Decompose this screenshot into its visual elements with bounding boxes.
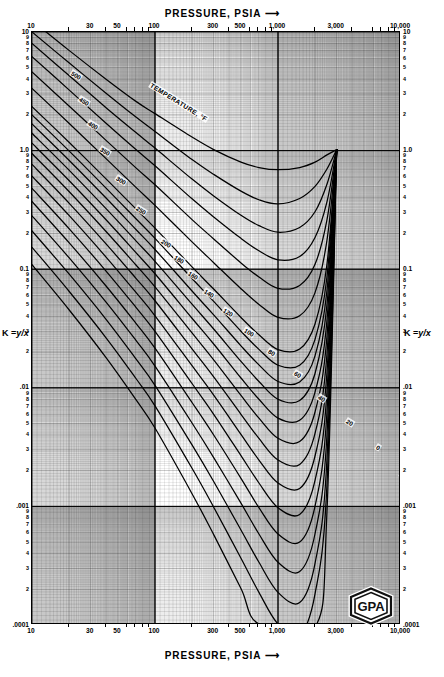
x-minor-tick [228, 27, 229, 31]
x-minor-tick [134, 623, 135, 627]
y-minor-tick-right-3: 3 [403, 328, 406, 334]
y-minor-tick-left-8: 8 [26, 514, 29, 520]
y-minor-tick-right-3: 3 [403, 209, 406, 215]
x-tick-top-30: 30 [86, 22, 93, 29]
y-minor-tick-right-3: 3 [403, 565, 406, 571]
y-minor-tick-right-7: 7 [403, 521, 406, 527]
bottom-axis-title: PRESSURE, PSIA⟶ [165, 650, 280, 661]
top-axis-title-text: PRESSURE, PSIA [165, 8, 262, 19]
x-minor-tick [142, 27, 143, 31]
y-minor-tick-left-3: 3 [26, 328, 29, 334]
y-minor-tick-left-2: 2 [26, 467, 29, 473]
y-minor-tick-left-4: 4 [26, 313, 29, 319]
x-minor-tick [351, 27, 352, 31]
y-minor-tick-left-2: 2 [26, 230, 29, 236]
y-minor-tick-left-7: 7 [26, 403, 29, 409]
y-minor-tick-right-8: 8 [403, 158, 406, 164]
x-minor-tick [126, 623, 127, 627]
y-minor-tick-left-8: 8 [26, 40, 29, 46]
y-minor-tick-left-3: 3 [26, 446, 29, 452]
y-minor-tick-left-6: 6 [26, 55, 29, 61]
y-minor-tick-left-5: 5 [26, 301, 29, 307]
y-minor-tick-right-5: 5 [403, 301, 406, 307]
gpa-logo-text: GPA [357, 599, 385, 614]
gpa-logo: GPA [348, 586, 394, 626]
y-minor-tick-left-8: 8 [26, 396, 29, 402]
x-minor-tick [372, 27, 373, 31]
y-tick-right-p0001: .0001 [403, 621, 420, 628]
x-tick-bottom-30: 30 [86, 627, 93, 634]
top-axis-arrow-icon: ⟶ [265, 8, 279, 19]
x-minor-tick [388, 27, 389, 31]
y-minor-tick-left-2: 2 [26, 586, 29, 592]
y-minor-tick-left-2: 2 [26, 348, 29, 354]
y-minor-tick-left-4: 4 [26, 550, 29, 556]
y-minor-tick-right-8: 8 [403, 514, 406, 520]
y-minor-tick-right-2: 2 [403, 348, 406, 354]
y-minor-tick-left-7: 7 [26, 284, 29, 290]
y-minor-tick-left-7: 7 [26, 47, 29, 53]
y-minor-tick-left-4: 4 [26, 194, 29, 200]
y-minor-tick-right-6: 6 [403, 173, 406, 179]
x-minor-tick [228, 623, 229, 627]
y-minor-tick-right-3: 3 [403, 446, 406, 452]
y-minor-tick-right-7: 7 [403, 165, 406, 171]
y-minor-tick-right-5: 5 [403, 420, 406, 426]
y-minor-tick-left-8: 8 [26, 277, 29, 283]
y-minor-tick-left-4: 4 [26, 76, 29, 82]
y-minor-tick-left-5: 5 [26, 64, 29, 70]
y-minor-tick-left-3: 3 [26, 565, 29, 571]
x-tick-bottom-3000: 3,000 [327, 627, 344, 634]
y-minor-tick-right-8: 8 [403, 40, 406, 46]
y-minor-tick-right-6: 6 [403, 411, 406, 417]
x-tick-top-300: 300 [207, 22, 218, 29]
y-minor-tick-right-7: 7 [403, 284, 406, 290]
x-minor-tick [394, 623, 395, 627]
x-minor-tick [105, 27, 106, 31]
y-minor-tick-right-5: 5 [403, 64, 406, 70]
x-minor-tick [249, 27, 250, 31]
bottom-axis-title-text: PRESSURE, PSIA [165, 650, 262, 661]
y-minor-tick-right-6: 6 [403, 55, 406, 61]
y-minor-tick-left-7: 7 [26, 521, 29, 527]
x-minor-tick [191, 623, 192, 627]
x-minor-tick [314, 27, 315, 31]
y-minor-tick-left-6: 6 [26, 173, 29, 179]
y-minor-tick-right-5: 5 [403, 183, 406, 189]
x-minor-tick [134, 27, 135, 31]
x-minor-tick [380, 27, 381, 31]
y-axis-label-left: K =y/x [2, 328, 29, 338]
y-minor-tick-right-7: 7 [403, 47, 406, 53]
x-minor-tick [148, 27, 149, 31]
y-minor-tick-left-5: 5 [26, 420, 29, 426]
y-minor-tick-right-2: 2 [403, 230, 406, 236]
y-minor-tick-left-7: 7 [26, 165, 29, 171]
x-minor-tick [314, 623, 315, 627]
x-minor-tick [142, 623, 143, 627]
y-minor-tick-right-2: 2 [403, 111, 406, 117]
y-minor-tick-right-2: 2 [403, 467, 406, 473]
y-minor-tick-left-3: 3 [26, 90, 29, 96]
chart-page: PRESSURE, PSIA⟶ PRESSURE, PSIA⟶ K =y/x K… [0, 0, 444, 677]
x-minor-tick [191, 27, 192, 31]
x-minor-tick [265, 623, 266, 627]
y-minor-tick-right-6: 6 [403, 292, 406, 298]
x-tick-bottom-10: 10 [27, 627, 34, 634]
x-tick-bottom-50: 50 [113, 627, 120, 634]
x-tick-bottom-10000: 10,000 [390, 627, 410, 634]
y-minor-tick-right-4: 4 [403, 76, 406, 82]
x-tick-bottom-100: 100 [148, 627, 159, 634]
y-minor-tick-left-5: 5 [26, 183, 29, 189]
y-minor-tick-right-8: 8 [403, 396, 406, 402]
y-minor-tick-right-3: 3 [403, 90, 406, 96]
y-minor-tick-right-4: 4 [403, 431, 406, 437]
y-minor-tick-right-8: 8 [403, 277, 406, 283]
y-minor-tick-left-3: 3 [26, 209, 29, 215]
x-minor-tick [257, 27, 258, 31]
y-minor-tick-right-4: 4 [403, 313, 406, 319]
x-minor-tick [271, 623, 272, 627]
x-minor-tick [68, 27, 69, 31]
x-tick-top-100: 100 [148, 22, 159, 29]
top-axis-title: PRESSURE, PSIA⟶ [165, 8, 280, 19]
x-tick-bottom-500: 500 [234, 627, 245, 634]
